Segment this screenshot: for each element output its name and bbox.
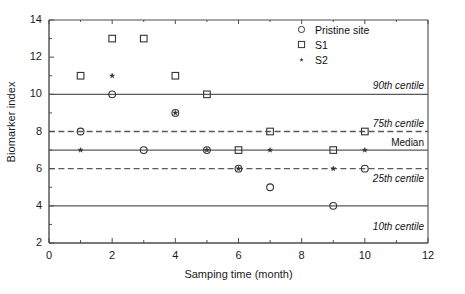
x-tick-label-2: 2	[97, 249, 127, 261]
data-point-s2-5	[204, 147, 209, 152]
reference-label-75th-centile: 75th centile	[268, 118, 424, 129]
chart-legend: Pristine site S1 S2	[292, 22, 369, 67]
x-axis-title: Samping time (month)	[49, 268, 428, 280]
data-point-s1-3	[140, 35, 147, 42]
data-point-s2-2	[110, 73, 115, 78]
legend-item-pristine-site: Pristine site	[292, 22, 369, 37]
y-tick-label-14: 14	[16, 13, 42, 25]
data-point-s1-2	[109, 35, 116, 42]
data-point-s2-10	[362, 147, 367, 152]
x-tick-label-10: 10	[350, 249, 380, 261]
data-point-s1-1	[77, 72, 84, 79]
y-tick-label-10: 10	[16, 87, 42, 99]
circle-marker-icon	[292, 23, 310, 37]
x-tick-label-4: 4	[160, 249, 190, 261]
legend-label-pristine-site: Pristine site	[315, 24, 369, 36]
legend-label-s2: S2	[315, 54, 328, 66]
x-tick-label-12: 12	[413, 249, 443, 261]
legend-label-s1: S1	[315, 39, 328, 51]
chart-figure: Biomarker index Samping time (month) Pri…	[0, 0, 465, 294]
x-tick-label-6: 6	[224, 249, 254, 261]
star-marker-icon	[292, 53, 310, 67]
y-tick-label-4: 4	[16, 199, 42, 211]
reference-label-10th-centile: 10th centile	[268, 221, 424, 232]
reference-label-25th-centile: 25th centile	[268, 173, 424, 184]
y-tick-label-6: 6	[16, 162, 42, 174]
reference-label-90th-centile: 90th centile	[268, 80, 424, 91]
data-point-s2-1	[78, 147, 83, 152]
square-marker-icon	[292, 38, 310, 52]
data-point-s1-4	[172, 72, 179, 79]
y-tick-label-12: 12	[16, 50, 42, 62]
reference-label-median: Median	[268, 137, 424, 148]
y-tick-label-2: 2	[16, 236, 42, 248]
legend-item-s2: S2	[292, 52, 369, 67]
data-point-s2-4	[173, 110, 178, 115]
data-point-s2-6	[236, 166, 241, 171]
legend-item-s1: S1	[292, 37, 369, 52]
data-point-pristine-site-7	[267, 184, 274, 191]
x-tick-label-8: 8	[287, 249, 317, 261]
y-tick-label-8: 8	[16, 125, 42, 137]
data-point-s2-7	[268, 147, 273, 152]
data-point-s2-9	[331, 166, 336, 171]
x-tick-label-0: 0	[34, 249, 64, 261]
